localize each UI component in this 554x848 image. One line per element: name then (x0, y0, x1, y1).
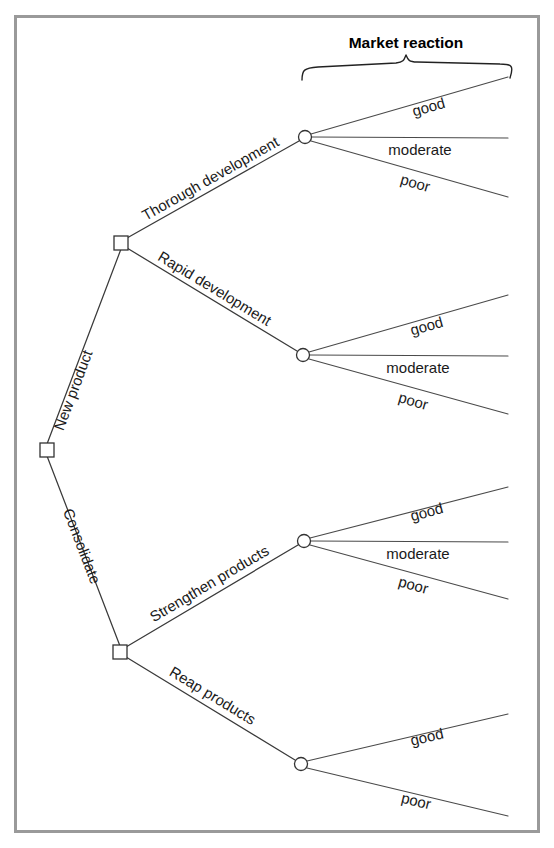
market-reaction-label: Market reaction (349, 34, 464, 51)
label-rapid-development: Rapid development (155, 248, 275, 330)
label-thorough-good: good (410, 94, 447, 120)
edge-strengthen-moderate (311, 541, 508, 542)
chance-node-thorough[interactable] (299, 131, 312, 144)
label-reap-products: Reap products (167, 663, 259, 728)
label-rapid-good: good (408, 313, 445, 339)
edge-reap-good (307, 714, 508, 761)
label-thorough-moderate: moderate (388, 141, 451, 158)
decision-tree-canvas: Market reaction New product Consolidate … (0, 0, 554, 848)
decision-tree-figure: Market reaction New product Consolidate … (0, 0, 554, 848)
label-strengthen-good: good (408, 499, 445, 524)
market-reaction-brace (302, 55, 512, 80)
market-reaction-brace-group (302, 55, 512, 80)
chance-node-rapid[interactable] (297, 349, 310, 362)
edge-thorough-good (311, 77, 508, 134)
chance-node-reap[interactable] (295, 758, 308, 771)
label-strengthen-products: Strengthen products (147, 542, 272, 625)
outcome-group-reap: good poor (307, 714, 508, 816)
edge-rapid-development (127, 248, 297, 351)
outcome-group-thorough: good moderate poor (311, 77, 508, 197)
decision-node-consolidate[interactable] (113, 645, 127, 659)
decision-node-new-product[interactable] (114, 236, 128, 250)
edge-reap-products (126, 657, 295, 760)
chance-node-strengthen[interactable] (298, 535, 311, 548)
label-new-product: New product (50, 347, 96, 433)
edge-thorough-development (127, 141, 299, 238)
label-rapid-poor: poor (397, 388, 431, 413)
label-strengthen-moderate: moderate (386, 545, 449, 562)
label-reap-poor: poor (400, 789, 433, 813)
outcome-group-rapid: good moderate poor (309, 295, 508, 414)
label-thorough-development: Thorough development (139, 132, 282, 223)
label-reap-good: good (409, 725, 445, 749)
label-rapid-moderate: moderate (386, 359, 449, 376)
label-consolidate: Consolidate (60, 506, 104, 586)
edge-rapid-moderate (310, 355, 508, 356)
edge-thorough-moderate (312, 137, 508, 138)
edge-strengthen-products (126, 545, 298, 647)
decision-node-root[interactable] (40, 443, 54, 457)
outcome-group-strengthen: good moderate poor (310, 487, 508, 599)
